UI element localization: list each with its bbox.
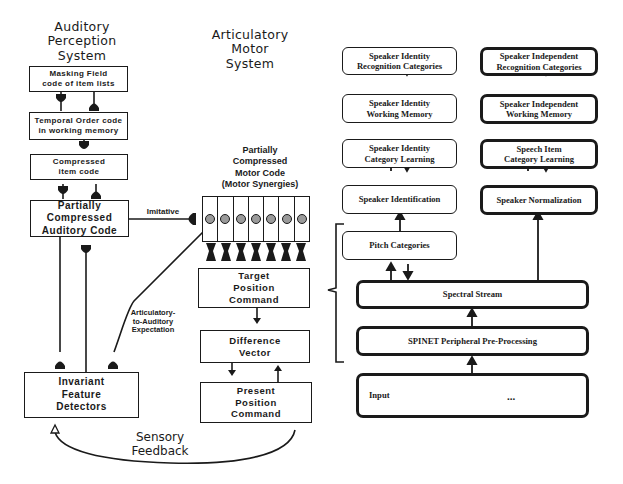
temporal-order-box: Temporal Order codein working memory: [29, 112, 128, 140]
synergy-node-icon: [236, 214, 246, 224]
box-text: Category Learning: [504, 154, 574, 164]
box-text: Command: [231, 408, 281, 420]
synergy-node-icon: [220, 214, 230, 224]
box-text: Auditory Code: [42, 225, 117, 238]
invariant-feature-box: InvariantFeatureDetectors: [24, 372, 139, 418]
box-text: Working Memory: [366, 109, 432, 119]
box-text: Temporal Order code: [35, 116, 123, 126]
synergy-cell: [234, 197, 249, 241]
masking-field-box: Masking Fieldcode of item lists: [29, 66, 128, 92]
box-text: Present: [231, 385, 281, 397]
box-text: Compressed: [42, 212, 117, 225]
box-text: Vector: [229, 347, 280, 359]
box-text: Speech Item: [504, 144, 574, 154]
box-text: Speaker Identity: [366, 98, 432, 108]
difference-vector-box: DifferenceVector: [200, 330, 310, 363]
label-line: Motor Code: [195, 168, 325, 179]
speaker-identity-learning-box: Speaker IdentityCategory Learning: [342, 139, 457, 168]
target-position-box: TargetPositionCommand: [198, 268, 310, 308]
synergy-cells: [203, 197, 309, 241]
partial-auditory-code-box: PartiallyCompressedAuditory Code: [30, 200, 129, 237]
synergy-node-icon: [282, 214, 292, 224]
articulatory-to-auditory-label: Articulatory- to-Auditory Expectation: [118, 309, 188, 335]
box-text: code of item lists: [42, 79, 115, 89]
speaker-normalization-box: Speaker Normalization: [480, 185, 598, 215]
title-line: Articulatory: [200, 28, 300, 42]
box-text: Compressed: [53, 157, 105, 167]
synergy-cell: [218, 197, 233, 241]
box-text: in working memory: [35, 126, 123, 136]
speaker-identification-box: Speaker Identification: [342, 185, 457, 214]
motor-synergies-box: [202, 196, 310, 242]
auditory-system-title: Auditory Perception System: [32, 20, 132, 63]
title-line: Auditory: [32, 20, 132, 34]
box-text: Recognition Categories: [357, 61, 442, 71]
synergy-cell: [279, 197, 294, 241]
box-text: Difference: [229, 335, 280, 347]
label-line: Expectation: [118, 326, 188, 335]
box-text: Speaker Identity: [365, 143, 435, 153]
box-text: Speaker Independent: [500, 99, 578, 109]
speaker-identity-wm-box: Speaker IdentityWorking Memory: [342, 94, 457, 123]
diagram-canvas: Auditory Perception System Articulatory …: [0, 0, 623, 484]
pitch-categories-box: Pitch Categories: [342, 231, 457, 260]
box-text: Command: [229, 294, 279, 306]
box-text: item code: [53, 167, 105, 177]
synergy-node-icon: [251, 214, 261, 224]
synergy-cell: [264, 197, 279, 241]
label-line: Partially: [195, 145, 325, 156]
synergy-cell: [295, 197, 309, 241]
title-line: Perception: [32, 34, 132, 48]
compressed-item-box: Compresseditem code: [30, 154, 128, 180]
box-text: Category Learning: [365, 154, 435, 164]
box-text: Position: [229, 282, 279, 294]
box-text: Target: [229, 270, 279, 282]
box-text: Masking Field: [42, 69, 115, 79]
label-line: Sensory: [120, 431, 200, 445]
speaker-independent-wm-box: Speaker IndependentWorking Memory: [480, 94, 598, 124]
synergy-cell: [249, 197, 264, 241]
box-text: Recognition Categories: [496, 62, 581, 72]
title-line: System: [200, 57, 300, 71]
motor-system-title: Articulatory Motor System: [200, 28, 300, 71]
speech-item-learning-box: Speech ItemCategory Learning: [480, 139, 598, 169]
speaker-identity-recognition-box: Speaker IdentityRecognition Categories: [342, 47, 457, 75]
title-line: System: [32, 49, 132, 63]
box-text: Position: [231, 397, 281, 409]
input-ellipsis: ...: [507, 390, 515, 403]
partial-motor-code-label: Partially Compressed Motor Code (Motor S…: [195, 145, 325, 190]
sensory-feedback-label: Sensory Feedback: [120, 431, 200, 459]
label-line: Compressed: [195, 156, 325, 167]
box-text: Feature: [56, 389, 107, 402]
synergy-cell: [203, 197, 218, 241]
synergy-node-icon: [205, 214, 215, 224]
box-text: Detectors: [56, 401, 107, 414]
box-text: Invariant: [56, 376, 107, 389]
box-text: Speaker Identity: [357, 51, 442, 61]
present-position-box: PresentPositionCommand: [200, 382, 312, 423]
spinet-preprocessing-box: SPINET Peripheral Pre-Processing: [356, 326, 589, 356]
spectral-stream-box: Spectral Stream: [356, 280, 589, 309]
box-text: Speaker Independent: [496, 51, 581, 61]
box-text: Partially: [42, 200, 117, 213]
input-box: Input ...: [356, 373, 589, 418]
speaker-independent-recognition-box: Speaker IndependentRecognition Categorie…: [480, 47, 598, 76]
label-line: (Motor Synergies): [195, 179, 325, 190]
imitative-label: Imitative: [138, 207, 188, 216]
input-label: Input: [369, 390, 390, 400]
synergy-node-icon: [297, 214, 307, 224]
box-text: Working Memory: [500, 109, 578, 119]
title-line: Motor: [200, 42, 300, 56]
synergy-node-icon: [266, 214, 276, 224]
label-line: Feedback: [120, 445, 200, 459]
